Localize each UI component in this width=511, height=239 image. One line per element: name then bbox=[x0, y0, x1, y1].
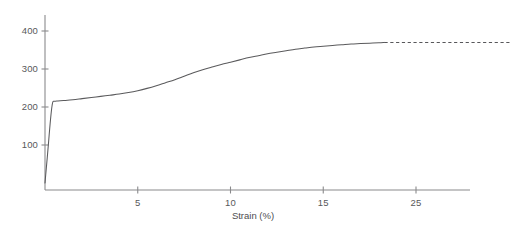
x-tick-label: 25 bbox=[396, 197, 436, 208]
x-axis-title: Strain (%) bbox=[193, 210, 313, 221]
x-tick-label: 5 bbox=[118, 197, 158, 208]
x-tick-label: 10 bbox=[211, 197, 251, 208]
chart-container: 100200300400 5101525 Strain (%) ✕ bbox=[0, 0, 511, 239]
y-tick-label: 200 bbox=[8, 101, 38, 112]
y-tick-label: 100 bbox=[8, 139, 38, 150]
axis-lines bbox=[45, 15, 470, 190]
stress-strain-curve bbox=[45, 42, 384, 183]
y-tick-label: 400 bbox=[8, 25, 38, 36]
y-tick-label: 300 bbox=[8, 63, 38, 74]
x-tick-label: 15 bbox=[303, 197, 343, 208]
